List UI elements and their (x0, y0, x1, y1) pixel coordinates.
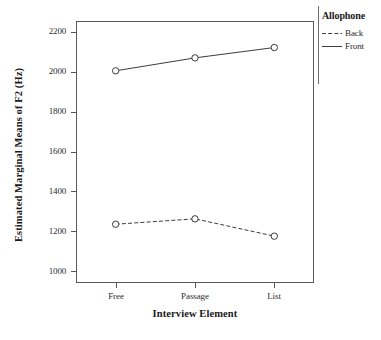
x-tick-label: Passage (160, 291, 230, 301)
legend-item-front[interactable]: Front (322, 40, 381, 53)
figure-caption (0, 330, 381, 340)
legend-swatch-dashed-icon (322, 29, 342, 38)
x-tick-label: List (239, 291, 309, 301)
data-point-marker (192, 55, 198, 61)
data-point-marker (192, 216, 198, 222)
y-tick-label: 1400 (32, 187, 66, 196)
y-tick-label: 1000 (32, 267, 66, 276)
legend-label: Front (345, 41, 364, 52)
data-point-marker (271, 44, 277, 50)
x-tick-mark (274, 283, 275, 288)
legend-item-back[interactable]: Back (322, 27, 381, 40)
legend: Allophone BackFront (322, 10, 381, 53)
x-tick-mark (195, 283, 196, 288)
y-tick-label: 2200 (32, 27, 66, 36)
x-tick-mark (116, 283, 117, 288)
x-axis-title: Interview Element (76, 308, 314, 319)
legend-label: Back (345, 28, 363, 39)
legend-title: Allophone (322, 10, 381, 22)
plot-series-svg (76, 21, 314, 283)
data-point-marker (112, 68, 118, 74)
y-tick-label: 1200 (32, 227, 66, 236)
data-point-marker (112, 221, 118, 227)
legend-divider (318, 6, 319, 84)
legend-swatch-solid-icon (322, 42, 342, 51)
figure-container: Estimated Marginal Means of F2 (Hz) 1000… (0, 0, 381, 340)
y-axis-title: Estimated Marginal Means of F2 (Hz) (10, 30, 28, 280)
y-tick-label: 2000 (32, 67, 66, 76)
x-tick-label: Free (81, 291, 151, 301)
data-point-marker (271, 233, 277, 239)
y-tick-label: 1600 (32, 147, 66, 156)
y-tick-label: 1800 (32, 107, 66, 116)
